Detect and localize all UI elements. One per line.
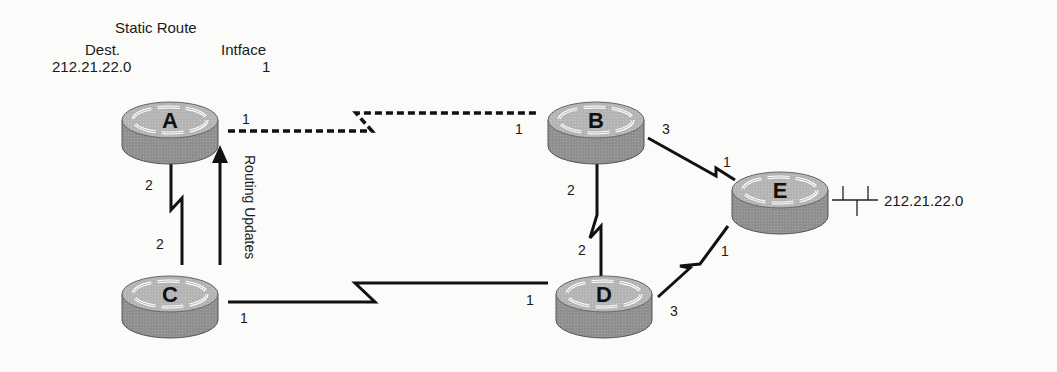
- network-diagram: A B C D E: [0, 0, 1057, 372]
- port-a-1: 1: [242, 112, 250, 126]
- router-e[interactable]: E: [732, 172, 828, 234]
- network-label: 212.21.22.0: [884, 193, 963, 209]
- link-c-d: [228, 283, 548, 302]
- router-a[interactable]: A: [122, 102, 218, 164]
- interface-header: Intface: [221, 42, 266, 58]
- router-a-label: A: [162, 108, 178, 133]
- router-c-label: C: [162, 282, 178, 307]
- port-c-1: 1: [240, 311, 248, 325]
- port-c-2: 2: [156, 237, 164, 251]
- static-route-title: Static Route: [115, 20, 197, 36]
- router-d[interactable]: D: [556, 276, 652, 338]
- port-a-2: 2: [145, 178, 153, 192]
- routing-updates-arrow: [212, 145, 228, 265]
- port-d-1: 1: [526, 293, 534, 307]
- router-c[interactable]: C: [122, 276, 218, 338]
- port-d-3: 3: [670, 304, 678, 318]
- port-b-3: 3: [662, 122, 670, 136]
- ethernet-segment: [832, 186, 878, 216]
- link-a-c: [171, 150, 182, 265]
- link-b-d: [590, 150, 601, 290]
- routing-updates-label: Routing Updates: [243, 155, 257, 259]
- port-e-1-bottom: 1: [721, 244, 729, 258]
- router-b[interactable]: B: [548, 102, 644, 164]
- link-d-e: [658, 226, 728, 297]
- link-a-b: [228, 113, 538, 131]
- dest-header: Dest.: [85, 42, 120, 58]
- router-e-label: E: [773, 178, 788, 203]
- port-d-2: 2: [578, 243, 586, 257]
- dest-value: 212.21.22.0: [52, 59, 131, 75]
- link-b-e: [648, 138, 735, 180]
- router-d-label: D: [596, 282, 612, 307]
- interface-value: 1: [262, 59, 270, 75]
- port-b-1: 1: [515, 122, 523, 136]
- port-b-2: 2: [567, 183, 575, 197]
- router-b-label: B: [588, 108, 604, 133]
- port-e-1-top: 1: [723, 155, 731, 169]
